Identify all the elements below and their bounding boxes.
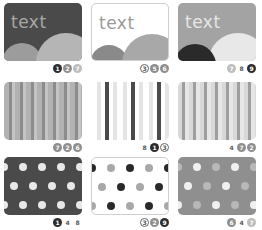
swatch-cell-9[interactable]: 6 4 7	[178, 157, 260, 230]
badge-group: 3 2 9	[140, 218, 169, 227]
swatch-card[interactable]	[91, 157, 169, 215]
number-badge: 7	[73, 64, 82, 73]
badge-group: 6 4 7	[227, 218, 256, 227]
number-badge: 7	[237, 143, 246, 152]
card-text: text	[185, 12, 221, 32]
number-badge: 5	[150, 64, 159, 73]
number-badge: 9	[247, 64, 256, 73]
swatch-card[interactable]	[4, 157, 82, 215]
pattern-swatch-grid: text 1 2 7 text 3 5 6 text	[0, 0, 262, 230]
number-badge: 4	[227, 143, 236, 152]
stripes-graphic	[4, 82, 82, 140]
number-badge: 6	[160, 64, 169, 73]
number-badge: 2	[63, 143, 72, 152]
swatch-cell-4[interactable]: 7 2 6	[4, 82, 86, 158]
number-badge: 8	[140, 143, 149, 152]
number-badge: 7	[53, 143, 62, 152]
number-badge: 2	[150, 218, 159, 227]
dots-graphic	[4, 157, 82, 215]
badge-group: 1 2 7	[53, 64, 82, 73]
number-badge: 3	[140, 218, 149, 227]
swatch-cell-2[interactable]: text 3 5 6	[91, 3, 173, 79]
swatch-cell-1[interactable]: text 1 2 7	[4, 3, 86, 79]
swatch-card[interactable]	[178, 157, 256, 215]
number-badge: 3	[140, 64, 149, 73]
number-badge: 4	[237, 218, 246, 227]
stripes-graphic	[178, 82, 256, 140]
badge-group: 7 8 9	[227, 64, 256, 73]
badge-group: 7 2 6	[53, 143, 82, 152]
number-badge: 6	[227, 218, 236, 227]
number-badge: 7	[247, 218, 256, 227]
card-text: text	[99, 13, 135, 33]
badge-group: 3 5 6	[140, 64, 169, 73]
badge-group: 8 1 3	[140, 143, 169, 152]
number-badge: 1	[53, 64, 62, 73]
swatch-cell-5[interactable]: 8 1 3	[91, 82, 173, 158]
swatch-card[interactable]: text	[4, 3, 82, 61]
number-badge: 8	[237, 64, 246, 73]
swatch-cell-8[interactable]: 3 2 9	[91, 157, 173, 230]
swatch-cell-6[interactable]: 4 7 2	[178, 82, 260, 158]
stripes-graphic	[91, 82, 169, 140]
number-badge: 1	[53, 218, 62, 227]
swatch-card[interactable]	[178, 82, 256, 140]
dots-graphic	[92, 158, 169, 215]
number-badge: 4	[63, 218, 72, 227]
number-badge: 6	[73, 143, 82, 152]
number-badge: 3	[160, 143, 169, 152]
number-badge: 8	[73, 218, 82, 227]
dots-graphic	[178, 157, 256, 215]
number-badge: 2	[247, 143, 256, 152]
badge-group: 1 4 8	[53, 218, 82, 227]
swatch-card[interactable]	[91, 82, 169, 140]
swatch-card[interactable]: text	[178, 3, 256, 61]
number-badge: 9	[160, 218, 169, 227]
badge-group: 4 7 2	[227, 143, 256, 152]
swatch-cell-7[interactable]: 1 4 8	[4, 157, 86, 230]
card-text: text	[11, 12, 47, 32]
swatch-card[interactable]: text	[91, 3, 169, 61]
swatch-card[interactable]	[4, 82, 82, 140]
number-badge: 7	[227, 64, 236, 73]
number-badge: 1	[150, 143, 159, 152]
number-badge: 2	[63, 64, 72, 73]
swatch-cell-3[interactable]: text 7 8 9	[178, 3, 260, 79]
